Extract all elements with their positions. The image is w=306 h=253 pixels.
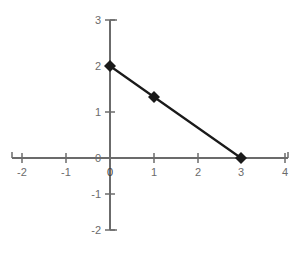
plot-canvas <box>0 0 306 253</box>
cartesian-plot: -2 -1 0 1 2 3 4 3 2 1 0 -1 -2 <box>0 0 306 253</box>
data-line-series-1 <box>110 66 241 158</box>
x-tick-label-4: 4 <box>282 167 288 178</box>
y-tick-label-2: 2 <box>95 61 101 72</box>
x-tick-label-3: 3 <box>238 167 244 178</box>
x-tick-label--2: -2 <box>17 167 27 178</box>
x-tick-label--1: -1 <box>61 167 71 178</box>
y-tick-label--2: -2 <box>91 225 101 236</box>
y-tick-label-0: 0 <box>95 153 101 164</box>
y-tick-label-1: 1 <box>95 107 101 118</box>
y-tick-label-3: 3 <box>95 15 101 26</box>
x-tick-label-0: 0 <box>107 167 113 178</box>
x-tick-label-2: 2 <box>195 167 201 178</box>
y-tick-label--1: -1 <box>91 189 101 200</box>
x-tick-label-1: 1 <box>151 167 157 178</box>
